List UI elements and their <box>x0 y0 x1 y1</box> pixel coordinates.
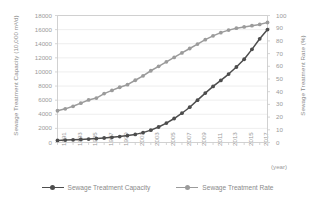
plot-area <box>0 0 315 204</box>
legend-item[interactable]: Sewage Treatment Rate <box>176 184 273 191</box>
legend-marker-icon <box>42 184 64 191</box>
sewage-treatment-chart: Sewage Treatment Capacity (10,000 m³/d) … <box>0 0 315 204</box>
legend-item[interactable]: Sewage Treatment Capacity <box>42 184 151 191</box>
chart-legend: Sewage Treatment CapacitySewage Treatmen… <box>0 184 315 191</box>
series-sewage-treatment-capacity <box>56 28 270 143</box>
legend-label: Sewage Treatment Capacity <box>68 184 151 191</box>
legend-marker-icon <box>176 184 198 191</box>
legend-label: Sewage Treatment Rate <box>202 184 273 191</box>
